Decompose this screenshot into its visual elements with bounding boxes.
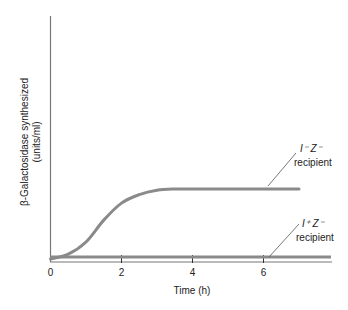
annotation-i-minus-genotype: I⁻ Z⁻ [300,143,323,154]
series-i-minus-z-minus-line [51,189,300,259]
annotation-i-minus-recipient: recipient [294,157,332,168]
leader-line-i-minus [268,153,296,186]
x-tick-label: 6 [261,267,267,278]
y-axis-label-line2: (units/ml) [31,121,42,162]
leader-line-i-plus [269,224,299,257]
x-tick-label: 2 [119,267,125,278]
x-tick-label: 4 [190,267,196,278]
annotation-i-plus-recipient: recipient [296,232,334,243]
annotation-i-plus-genotype: I⁺ Z⁻ [302,218,325,229]
x-axis-label: Time (h) [174,285,211,296]
chart: 0246 I⁻ Z⁻ recipient I⁺ Z⁻ recipient Tim… [0,0,348,310]
x-tick-label: 0 [48,267,54,278]
x-tick-labels: 0246 [48,267,267,278]
y-axis-label-line1: β-Galactosidase synthesized [19,78,30,206]
